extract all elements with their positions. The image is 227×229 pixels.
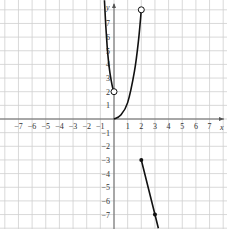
- svg-text:−7: −7: [14, 122, 23, 131]
- svg-text:2: 2: [139, 122, 143, 131]
- svg-text:2: 2: [106, 88, 110, 97]
- plot-curves: [104, 0, 158, 228]
- svg-text:6: 6: [194, 122, 198, 131]
- svg-text:−6: −6: [28, 122, 37, 131]
- point-markers: [111, 7, 157, 217]
- svg-text:−5: −5: [101, 183, 110, 192]
- y-axis-label: y: [105, 3, 110, 12]
- svg-text:−2: −2: [101, 142, 110, 151]
- svg-text:1: 1: [126, 122, 130, 131]
- svg-text:−3: −3: [101, 156, 110, 165]
- svg-text:5: 5: [180, 122, 184, 131]
- svg-text:1: 1: [106, 101, 110, 110]
- x-axis-label: x: [219, 123, 224, 132]
- svg-text:3: 3: [153, 122, 157, 131]
- svg-text:−4: −4: [55, 122, 64, 131]
- function-graph: −7−6−5−4−3−2−11234567−7−6−5−4−3−2−112345…: [0, 0, 227, 229]
- svg-text:−4: −4: [101, 170, 110, 179]
- svg-text:−7: −7: [101, 211, 110, 220]
- svg-text:4: 4: [167, 122, 171, 131]
- svg-text:−6: −6: [101, 197, 110, 206]
- grid-lines: [0, 0, 227, 229]
- svg-text:3: 3: [106, 74, 110, 83]
- line-segment-path: [141, 160, 158, 228]
- svg-text:−2: −2: [82, 122, 91, 131]
- svg-text:−5: −5: [41, 122, 50, 131]
- svg-text:−1: −1: [101, 129, 110, 138]
- svg-text:−3: −3: [69, 122, 78, 131]
- svg-text:7: 7: [208, 122, 212, 131]
